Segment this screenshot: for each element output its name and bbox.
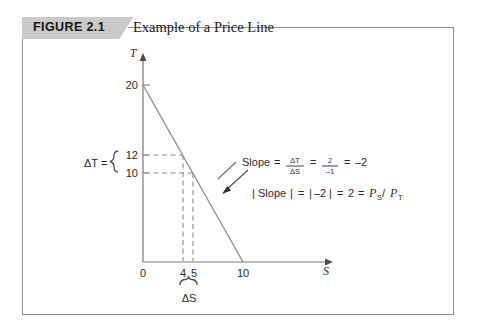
abs-close-bar: | [329, 187, 332, 199]
slope-frac1-numerator: ΔT [290, 156, 300, 165]
y-tick-label-10: 10 [126, 167, 138, 179]
slope-arrow-shaft [226, 170, 248, 190]
abs-open-bar: | [309, 187, 312, 199]
price-ratio-slash: / [382, 187, 386, 199]
delta-t-brace [110, 151, 118, 172]
abs-slope-equals-1: = [298, 187, 304, 199]
abs-slope-equals-2: = [337, 187, 343, 199]
y-tick-label-12: 12 [126, 149, 138, 161]
abs-slope-bar-left: | [252, 187, 255, 199]
price-ratio-denominator: P [389, 186, 398, 200]
y-tick-label-20: 20 [126, 79, 138, 91]
abs-slope-word: Slope [258, 187, 286, 199]
x-tick-label-5: 5 [191, 267, 197, 279]
slope-frac2-numerator: 2 [328, 156, 332, 165]
abs-slope-value: 2 [348, 187, 354, 199]
slope-word: Slope [242, 156, 270, 168]
abs-slope-bar-right: | [290, 187, 293, 199]
x-tick-label-4: 4 [180, 267, 186, 279]
delta-t-label: ΔT [84, 157, 98, 169]
slope-equals-3: = [344, 156, 350, 168]
delta-t-equals: = [101, 157, 107, 169]
plot-area: T S 20 12 10 0 4 5 [22, 27, 454, 315]
slope-leader-line [218, 162, 236, 179]
figure-root: FIGURE 2.1 Example of a Price Line T S 2… [0, 0, 482, 336]
slope-equals-1: = [274, 156, 280, 168]
x-tick-label-0: 0 [140, 267, 146, 279]
abs-value: –2 [314, 187, 326, 199]
slope-result: –2 [355, 156, 367, 168]
slope-frac2-denominator: –1 [326, 167, 334, 176]
price-ratio-numerator: P [368, 186, 377, 200]
x-tick-label-10: 10 [237, 267, 249, 279]
x-axis-label: S [323, 264, 329, 278]
price-ratio-denominator-sub: T [398, 193, 403, 202]
delta-s-label: ΔS [182, 292, 197, 304]
y-axis-label: T [130, 46, 138, 60]
abs-slope-equals-3: = [358, 187, 364, 199]
slope-equals-2: = [310, 156, 316, 168]
slope-frac1-denominator: ΔS [290, 167, 300, 176]
y-axis-arrowhead [140, 53, 147, 61]
